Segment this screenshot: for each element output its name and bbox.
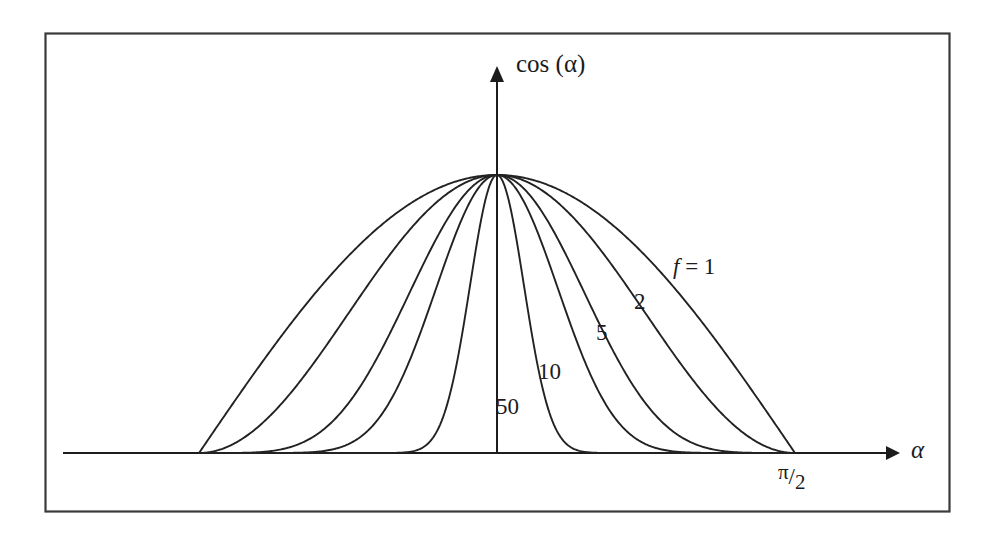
- chart-canvas: [0, 0, 981, 537]
- curve-label-5: 5: [596, 321, 608, 344]
- pi-numerator: π: [778, 460, 789, 484]
- curve-label-2: 2: [634, 290, 646, 313]
- x-axis-title: α: [911, 437, 924, 462]
- curve-label-10: 10: [538, 360, 561, 383]
- figure-container: cos (α) α π/2 f = 1 2 5 10 50: [0, 0, 981, 537]
- curve-label-50: 50: [496, 395, 519, 418]
- x-tick-label-pi-over-2: π/2: [778, 464, 806, 490]
- two-denominator: 2: [795, 470, 806, 494]
- y-axis-title: cos (α): [516, 51, 585, 76]
- f-variable-symbol: f: [673, 254, 679, 279]
- figure-background: [0, 0, 981, 537]
- f-1-value: = 1: [685, 254, 715, 279]
- curve-label-f-1: f = 1: [673, 255, 715, 278]
